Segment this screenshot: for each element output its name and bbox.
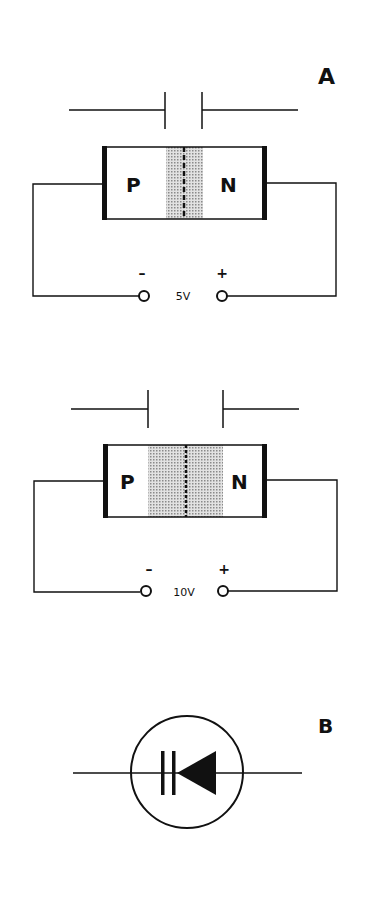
- p-contact-1: [102, 146, 107, 220]
- negative-terminal-2: [141, 586, 151, 596]
- n-label-1: N: [220, 173, 237, 197]
- n-contact-1: [262, 146, 267, 220]
- capacitor-plate-2-icon: [172, 751, 176, 795]
- positive-sign-1: +: [216, 265, 228, 281]
- negative-terminal-1: [139, 291, 149, 301]
- negative-sign-2: –: [146, 561, 153, 577]
- n-contact-2: [262, 444, 267, 518]
- negative-sign-1: –: [139, 265, 146, 281]
- positive-sign-2: +: [218, 561, 230, 577]
- voltage-label-1: 5V: [176, 290, 191, 303]
- p-label-2: P: [120, 470, 135, 494]
- voltage-label-2: 10V: [173, 586, 195, 599]
- panel-a-label: A: [318, 64, 335, 89]
- capacitor-symbol-1: [69, 92, 298, 129]
- p-label-1: P: [126, 173, 141, 197]
- p-contact-2: [103, 444, 108, 518]
- circuit-10v: P N – + 10V: [34, 390, 337, 599]
- panel-b-label: B: [318, 714, 333, 738]
- n-label-2: N: [231, 470, 248, 494]
- positive-terminal-1: [217, 291, 227, 301]
- capacitor-symbol-2: [71, 390, 299, 428]
- diode-triangle-icon: [177, 751, 216, 795]
- capacitor-plate-1-icon: [161, 751, 165, 795]
- circuit-5v: P N – + 5V: [33, 92, 336, 303]
- varactor-diagram: A P N – + 5V: [0, 0, 366, 899]
- positive-terminal-2: [218, 586, 228, 596]
- varactor-diode-symbol: [73, 716, 302, 828]
